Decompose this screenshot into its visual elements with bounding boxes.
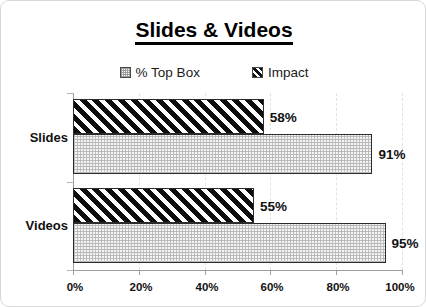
x-axis-tick-100 [402,270,403,275]
bar-slides-impact[interactable] [73,99,264,134]
x-axis-label-100: 100% [385,281,414,293]
bar-videos-top-box[interactable] [73,223,386,263]
legend-item-top-box[interactable]: % Top Box [120,65,200,80]
x-axis-label-40: 40% [195,281,218,293]
bar-videos-impact[interactable] [73,188,254,223]
dotted-square-swatch-icon [120,67,131,78]
legend-item-top-box-label: % Top Box [136,65,200,80]
bar-value-slides-impact: 58% [270,109,297,124]
legend-item-impact[interactable]: Impact [252,65,309,80]
hatched-square-swatch-icon [252,67,263,78]
chart-title-text: Slides & Videos [135,19,292,45]
x-axis-tick-0 [73,270,74,275]
plot-area: 58% 91% 55% 95% [73,93,402,270]
x-axis-tick-20 [139,270,140,275]
x-axis-label-20: 20% [129,281,152,293]
bar-value-videos-impact: 55% [260,198,287,213]
chart-card: Slides & Videos % Top Box Impact 58% 91%… [0,0,426,307]
x-axis-tick-40 [205,270,206,275]
x-axis-label-60: 60% [260,281,283,293]
y-axis-label-slides: Slides [7,130,73,145]
legend-item-impact-label: Impact [268,65,309,80]
bar-value-videos-top-box: 95% [392,236,419,251]
x-axis-label-80: 80% [326,281,349,293]
x-axis-line [73,270,403,271]
x-axis-tick-80 [336,270,337,275]
y-axis-label-videos: Videos [7,218,73,233]
x-axis-tick-60 [270,270,271,275]
y-axis-labels: Slides Videos [1,1,73,307]
bar-value-slides-top-box: 91% [378,147,405,162]
bar-slides-top-box[interactable] [73,134,372,174]
